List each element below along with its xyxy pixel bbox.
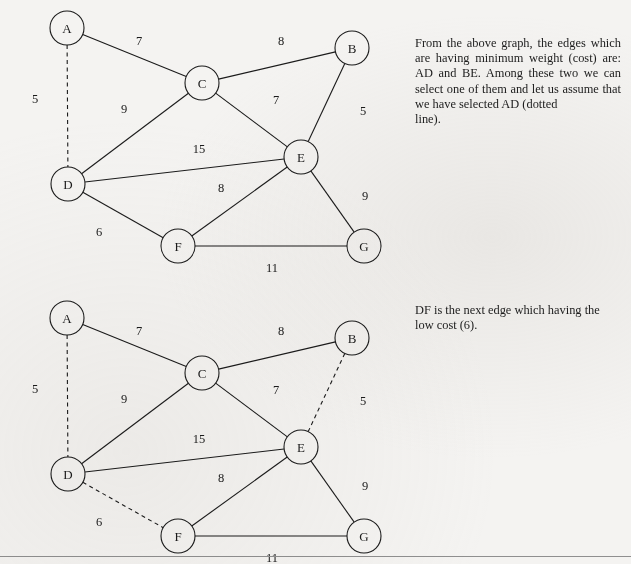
node-label-B: B bbox=[348, 331, 357, 346]
caption-1-paragraph-2: line). bbox=[415, 112, 621, 127]
node-A bbox=[50, 301, 84, 335]
node-C bbox=[185, 356, 219, 390]
edge-weight-FG: 11 bbox=[266, 261, 278, 275]
node-D bbox=[51, 457, 85, 491]
edge-AC bbox=[83, 34, 187, 76]
edge-weight-AD: 5 bbox=[32, 92, 38, 106]
edge-weight-CE: 7 bbox=[273, 383, 279, 397]
edge-BE bbox=[308, 353, 345, 431]
node-label-C: C bbox=[198, 366, 207, 381]
edge-CD bbox=[82, 383, 189, 464]
edge-AD bbox=[67, 45, 68, 167]
edge-weight-FE: 8 bbox=[218, 471, 224, 485]
edge-AC bbox=[83, 324, 187, 366]
edge-CE bbox=[216, 383, 288, 437]
node-label-C: C bbox=[198, 76, 207, 91]
graph-2: 7859751586911ABCDEFG bbox=[32, 301, 381, 564]
node-F bbox=[161, 229, 195, 263]
edge-BE bbox=[308, 63, 345, 141]
node-D bbox=[51, 167, 85, 201]
caption-block-1: From the above graph, the edges which ar… bbox=[415, 36, 621, 127]
edge-weight-CD: 9 bbox=[121, 102, 127, 116]
edge-weight-CB: 8 bbox=[278, 324, 284, 338]
node-G bbox=[347, 229, 381, 263]
edge-weight-EG: 9 bbox=[362, 479, 368, 493]
edge-weight-DF: 6 bbox=[96, 515, 102, 529]
node-label-E: E bbox=[297, 440, 305, 455]
edge-CE bbox=[216, 93, 288, 147]
edge-weight-DE: 15 bbox=[193, 142, 206, 156]
edge-weight-AC: 7 bbox=[136, 34, 142, 48]
edge-weight-BE: 5 bbox=[360, 104, 366, 118]
node-E bbox=[284, 430, 318, 464]
edge-CB bbox=[219, 52, 336, 79]
edge-FE bbox=[192, 457, 287, 526]
node-C bbox=[185, 66, 219, 100]
page-canvas: 7859751586911ABCDEFG7859751586911ABCDEFG… bbox=[0, 0, 631, 564]
node-label-F: F bbox=[174, 239, 181, 254]
edge-weight-DE: 15 bbox=[193, 432, 206, 446]
node-label-F: F bbox=[174, 529, 181, 544]
node-E bbox=[284, 140, 318, 174]
edge-weight-AD: 5 bbox=[32, 382, 38, 396]
page-bottom-rule bbox=[0, 556, 631, 557]
edge-DF bbox=[83, 482, 163, 527]
edge-DE bbox=[85, 449, 284, 472]
graph-1: 7859751586911ABCDEFG bbox=[32, 11, 381, 275]
edge-EG bbox=[311, 461, 354, 522]
caption-2-paragraph-1: DF is the next edge which having the low… bbox=[415, 303, 621, 333]
edge-weight-DF: 6 bbox=[96, 225, 102, 239]
edge-FE bbox=[192, 167, 287, 236]
edge-EG bbox=[311, 171, 354, 232]
node-label-D: D bbox=[63, 177, 72, 192]
edge-weight-CB: 8 bbox=[278, 34, 284, 48]
node-label-E: E bbox=[297, 150, 305, 165]
caption-block-2: DF is the next edge which having the low… bbox=[415, 303, 621, 333]
edge-CB bbox=[219, 342, 336, 369]
node-label-G: G bbox=[359, 529, 368, 544]
node-label-G: G bbox=[359, 239, 368, 254]
node-G bbox=[347, 519, 381, 553]
edge-weight-FE: 8 bbox=[218, 181, 224, 195]
node-F bbox=[161, 519, 195, 553]
node-label-A: A bbox=[62, 21, 72, 36]
edge-weight-AC: 7 bbox=[136, 324, 142, 338]
node-label-A: A bbox=[62, 311, 72, 326]
edge-DF bbox=[83, 192, 163, 237]
edge-weight-BE: 5 bbox=[360, 394, 366, 408]
node-label-D: D bbox=[63, 467, 72, 482]
caption-1-paragraph-1: From the above graph, the edges which ar… bbox=[415, 36, 621, 112]
node-B bbox=[335, 31, 369, 65]
edge-weight-CD: 9 bbox=[121, 392, 127, 406]
node-label-B: B bbox=[348, 41, 357, 56]
edge-DE bbox=[85, 159, 284, 182]
edge-CD bbox=[82, 93, 189, 174]
edge-weight-FG: 11 bbox=[266, 551, 278, 564]
edge-AD bbox=[67, 335, 68, 457]
edge-weight-EG: 9 bbox=[362, 189, 368, 203]
node-A bbox=[50, 11, 84, 45]
node-B bbox=[335, 321, 369, 355]
edge-weight-CE: 7 bbox=[273, 93, 279, 107]
